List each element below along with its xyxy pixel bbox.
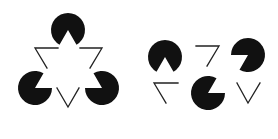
kanizsa-figure <box>0 0 278 139</box>
